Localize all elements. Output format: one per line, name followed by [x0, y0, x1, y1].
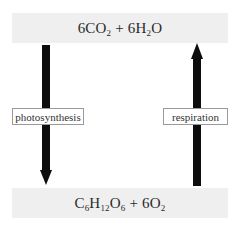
- bottom-formula-box: C6H12O6 + 6O2: [12, 188, 228, 218]
- photosynthesis-label-text: photosynthesis: [15, 111, 80, 123]
- top-formula-box: 6CO2 + 6H2O: [12, 13, 228, 43]
- bottom-formula: C6H12O6 + 6O2: [74, 195, 165, 212]
- photosynthesis-label: photosynthesis: [12, 108, 84, 125]
- top-formula: 6CO2 + 6H2O: [78, 20, 163, 37]
- respiration-label-text: respiration: [172, 111, 219, 123]
- arrow-up-icon: [191, 43, 203, 59]
- arrow-down-icon: [40, 170, 52, 185]
- cropped-caption-text: [12, 0, 132, 3]
- respiration-label: respiration: [163, 108, 228, 125]
